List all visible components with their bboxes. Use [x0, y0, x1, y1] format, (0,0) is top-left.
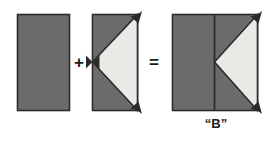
operand-two-rectangle-with-triangle: [86, 11, 142, 114]
operand-one-body: [18, 15, 70, 111]
equals-operator: =: [149, 54, 159, 71]
figure-canvas: + = “B”: [0, 0, 269, 141]
operand-one-rectangle: [18, 15, 70, 111]
plus-operator: +: [74, 54, 84, 71]
result-caption-label: “B”: [172, 117, 260, 130]
result-b-shape: [173, 11, 263, 114]
arrow-marker-operand-two-apex-outer: [86, 56, 93, 69]
